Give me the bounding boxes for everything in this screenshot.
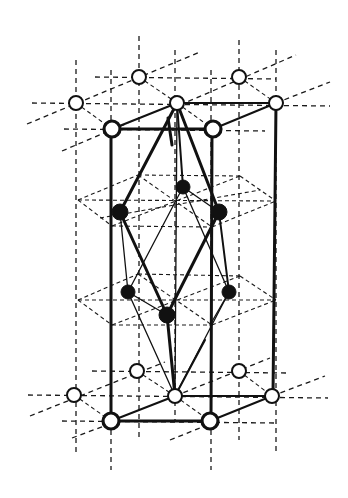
filled-atom	[112, 204, 128, 220]
open-atom	[232, 364, 246, 378]
filled-atom	[176, 180, 190, 194]
filled-atom	[211, 204, 227, 220]
open-atom-bold	[104, 121, 120, 137]
open-atom	[265, 389, 279, 403]
open-atom-bold	[202, 413, 218, 429]
open-atom	[130, 364, 144, 378]
crystal-lattice-diagram	[0, 0, 348, 498]
open-atom-bold	[205, 121, 221, 137]
open-atom	[269, 96, 283, 110]
filled-atom	[222, 285, 236, 299]
open-atom	[168, 389, 182, 403]
open-atom	[132, 70, 146, 84]
open-atom-bold	[103, 413, 119, 429]
filled-atom	[159, 307, 175, 323]
filled-atom	[121, 285, 135, 299]
open-atom	[170, 96, 184, 110]
open-atom	[67, 388, 81, 402]
open-atom	[69, 96, 83, 110]
open-atom	[232, 70, 246, 84]
